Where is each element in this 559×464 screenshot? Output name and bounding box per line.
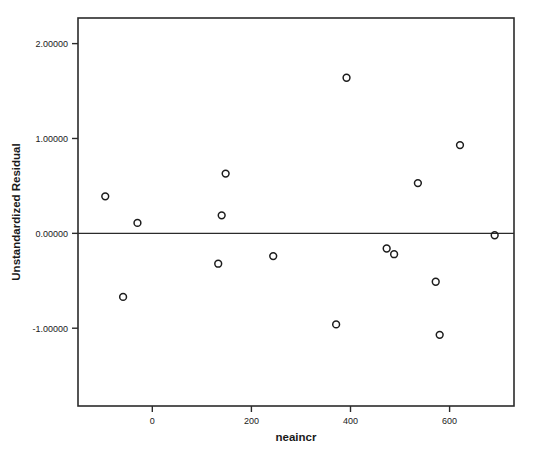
data-point: [383, 245, 390, 252]
data-point-markers: [102, 74, 498, 338]
data-point: [457, 142, 464, 149]
y-tick-label: 1.00000: [35, 134, 68, 144]
scatter-plot-page: 0200400600 -1.000000.000001.000002.00000…: [0, 0, 559, 464]
scatter-plot-figure: 0200400600 -1.000000.000001.000002.00000…: [0, 0, 559, 464]
x-axis-title: neaincr: [276, 431, 317, 443]
data-point: [270, 253, 277, 260]
data-point: [222, 170, 229, 177]
x-tick-label: 200: [244, 416, 259, 426]
y-tick-label: -1.00000: [32, 324, 68, 334]
plot-frame: [78, 18, 514, 406]
data-point: [134, 220, 141, 227]
x-tick-label: 0: [150, 416, 155, 426]
data-point: [436, 331, 443, 338]
data-point: [215, 260, 222, 267]
data-point: [343, 74, 350, 81]
x-axis-ticks: [152, 406, 449, 412]
y-tick-label: 0.00000: [35, 229, 68, 239]
plot-area-border: [78, 18, 514, 406]
y-axis-title: Unstandardized Residual: [10, 143, 22, 280]
x-tick-label: 400: [343, 416, 358, 426]
data-point: [333, 321, 340, 328]
data-point: [391, 251, 398, 258]
data-point: [120, 294, 127, 301]
x-axis-tick-labels: 0200400600: [150, 416, 457, 426]
x-tick-label: 600: [442, 416, 457, 426]
data-point: [432, 278, 439, 285]
y-tick-label: 2.00000: [35, 39, 68, 49]
data-point: [414, 180, 421, 187]
y-axis-tick-labels: -1.000000.000001.000002.00000: [32, 39, 68, 334]
data-point: [218, 212, 225, 219]
data-point: [102, 193, 109, 200]
y-axis-ticks: [72, 44, 78, 329]
